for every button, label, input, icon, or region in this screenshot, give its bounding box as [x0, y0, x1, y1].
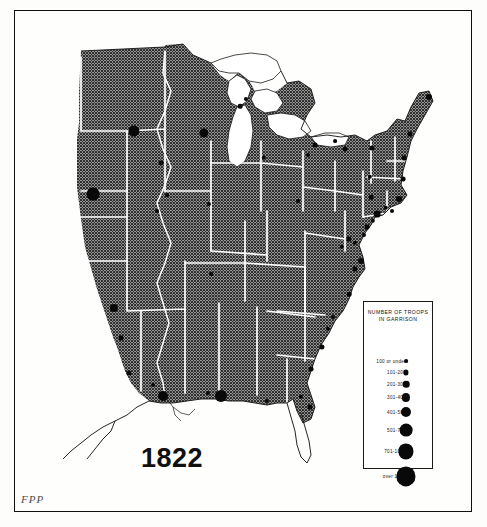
legend-entry-dot: [401, 407, 411, 417]
year-label: 1822: [141, 443, 203, 474]
legend-entry-dot: [403, 381, 410, 388]
legend-entry-dot: [403, 370, 408, 375]
garrison-dot: [238, 104, 243, 109]
garrison-dot: [401, 177, 406, 182]
garrison-dot: [87, 188, 100, 201]
garrison-dot: [215, 390, 227, 402]
map-legend: NUMBER OF TROOPS IN GARRISON 100 or unde…: [363, 301, 433, 469]
garrison-dot: [119, 336, 124, 341]
garrison-dot: [390, 209, 394, 213]
legend-entry-dot: [404, 360, 408, 364]
legend-title-line2: IN GARRISON: [379, 316, 418, 322]
garrison-dot: [209, 272, 213, 276]
garrison-dot: [358, 258, 364, 264]
artist-signature: FPP: [21, 493, 44, 505]
garrison-dot: [309, 367, 314, 372]
garrison-dot: [151, 383, 155, 387]
legend-entry-dot: [400, 424, 413, 437]
map-page: 1822 FPP NUMBER OF TROOPS IN GARRISON 10…: [0, 0, 487, 527]
garrison-dot: [306, 153, 310, 157]
garrison-dot: [296, 199, 300, 203]
map-frame: 1822 FPP NUMBER OF TROOPS IN GARRISON 10…: [14, 10, 472, 512]
garrison-dot: [374, 211, 381, 218]
garrison-dot: [362, 233, 366, 237]
map-stage: 1822 FPP NUMBER OF TROOPS IN GARRISON 10…: [15, 11, 473, 513]
garrison-dot: [396, 196, 402, 202]
legend-title: NUMBER OF TROOPS IN GARRISON: [364, 309, 432, 323]
garrison-dot: [426, 94, 432, 100]
garrison-dot: [369, 195, 374, 200]
garrison-dot: [365, 225, 370, 230]
garrison-dot: [155, 209, 159, 213]
garrison-dot: [402, 156, 407, 161]
legend-entry-label: 100 or under: [376, 359, 406, 364]
garrison-dot: [343, 147, 348, 152]
garrison-dot: [158, 391, 168, 401]
legend-entry-dot: [402, 393, 410, 401]
garrison-dot: [165, 193, 169, 197]
garrison-dot: [347, 292, 352, 297]
garrison-dot: [313, 143, 318, 148]
legend-entry-dot: [398, 444, 413, 459]
garrison-dot: [331, 315, 335, 319]
legend-title-line1: NUMBER OF TROOPS: [368, 309, 429, 315]
garrison-dot: [333, 139, 337, 143]
garrison-dot: [159, 161, 164, 166]
